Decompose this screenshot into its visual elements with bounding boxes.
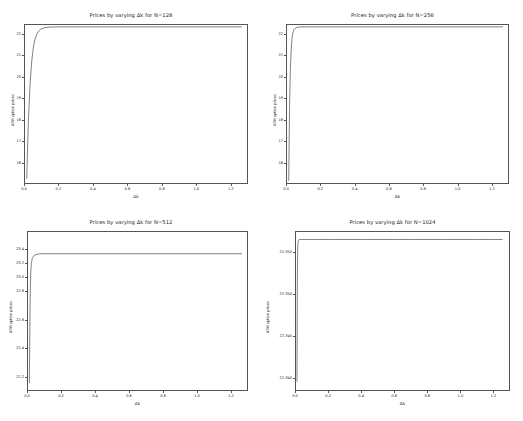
x-tick-label: 0.6 <box>125 187 131 191</box>
x-tick-mark <box>27 391 28 393</box>
y-tick-label: 22 <box>262 32 283 36</box>
y-tick-label: 16 <box>0 161 21 165</box>
x-tick-mark <box>493 391 494 393</box>
y-tick-mark <box>22 163 24 164</box>
y-tick-mark <box>22 120 24 121</box>
subplot-title: Prices by varying Δk for N=512 <box>0 219 262 225</box>
y-tick-label: 17 <box>0 139 21 143</box>
y-tick-mark <box>293 336 295 337</box>
y-tick-mark <box>22 55 24 56</box>
x-tick-label: 0.0 <box>21 187 27 191</box>
y-tick-label: 17 <box>262 139 283 143</box>
subplot-n512: Prices by varying Δk for N=512 ATM optio… <box>0 215 262 418</box>
x-tick-mark <box>295 391 296 393</box>
y-tick-label: 21 <box>0 53 21 57</box>
y-tick-label: 22.2 <box>0 375 24 379</box>
y-tick-mark <box>25 291 27 292</box>
plot-area <box>24 24 248 184</box>
x-tick-mark <box>196 184 197 186</box>
y-tick-mark <box>25 377 27 378</box>
x-tick-mark <box>163 391 164 393</box>
y-tick-label: 19 <box>0 96 21 100</box>
x-tick-label: 0.4 <box>92 394 98 398</box>
x-tick-mark <box>286 184 287 186</box>
series-line-n512 <box>28 232 247 390</box>
x-tick-label: 0.6 <box>126 394 132 398</box>
y-tick-label: 18 <box>262 118 283 122</box>
series-line-n128 <box>25 25 247 183</box>
x-tick-mark <box>129 391 130 393</box>
y-tick-mark <box>284 163 286 164</box>
x-tick-mark <box>427 391 428 393</box>
x-tick-label: 0.8 <box>420 187 426 191</box>
y-axis-label: ATM option prices <box>273 80 277 140</box>
y-tick-label: 21 <box>262 53 283 57</box>
subplot-n1024: Prices by varying Δk for N=1024 ATM opti… <box>262 215 523 418</box>
x-tick-mark <box>61 391 62 393</box>
y-tick-label: 16 <box>262 161 283 165</box>
y-tick-label: 20 <box>0 75 21 79</box>
subplot-n256: Prices by varying Δk for N=256 ATM optio… <box>262 8 523 211</box>
x-tick-label: 0.0 <box>292 394 298 398</box>
x-tick-label: 0.2 <box>317 187 323 191</box>
x-tick-mark <box>355 184 356 186</box>
y-tick-label: 23.4 <box>0 247 24 251</box>
x-tick-mark <box>492 184 493 186</box>
y-tick-mark <box>25 249 27 250</box>
y-tick-mark <box>284 55 286 56</box>
x-tick-label: 0.4 <box>352 187 358 191</box>
x-tick-label: 1.2 <box>228 187 234 191</box>
x-tick-mark <box>423 184 424 186</box>
x-tick-mark <box>231 391 232 393</box>
x-tick-label: 1.0 <box>194 394 200 398</box>
y-tick-mark <box>25 348 27 349</box>
plot-area <box>295 231 510 391</box>
x-tick-label: 0.0 <box>24 394 30 398</box>
y-tick-label: 22.350 <box>262 292 292 296</box>
x-tick-mark <box>58 184 59 186</box>
x-tick-label: 0.6 <box>391 394 397 398</box>
x-tick-mark <box>231 184 232 186</box>
x-tick-mark <box>394 391 395 393</box>
x-tick-label: 0.4 <box>358 394 364 398</box>
y-tick-mark <box>284 120 286 121</box>
x-tick-label: 1.2 <box>491 394 497 398</box>
y-tick-label: 19 <box>262 96 283 100</box>
y-tick-mark <box>293 378 295 379</box>
y-tick-mark <box>25 277 27 278</box>
y-tick-mark <box>22 34 24 35</box>
x-tick-mark <box>320 184 321 186</box>
plot-area <box>27 231 248 391</box>
figure-canvas: Prices by varying Δk for N=128 ATM optio… <box>0 0 523 421</box>
y-tick-label: 20 <box>262 75 283 79</box>
y-tick-label: 18 <box>0 118 21 122</box>
plot-area <box>286 24 509 184</box>
subplot-title: Prices by varying Δk for N=128 <box>0 12 262 18</box>
y-tick-mark <box>22 98 24 99</box>
x-tick-label: 1.2 <box>228 394 234 398</box>
y-tick-label: 22.6 <box>0 318 24 322</box>
x-tick-mark <box>93 184 94 186</box>
x-axis-label: Δk <box>24 194 248 199</box>
y-tick-mark <box>284 34 286 35</box>
x-tick-label: 0.2 <box>58 394 64 398</box>
x-tick-mark <box>197 391 198 393</box>
series-line-n1024 <box>296 232 509 390</box>
subplot-n128: Prices by varying Δk for N=128 ATM optio… <box>0 8 262 211</box>
x-tick-label: 0.6 <box>386 187 392 191</box>
x-axis-label: Δk <box>286 194 509 199</box>
y-tick-label: 22.345 <box>262 334 292 338</box>
x-tick-label: 0.8 <box>160 394 166 398</box>
x-tick-mark <box>460 391 461 393</box>
series-line-n256 <box>287 25 508 183</box>
x-tick-mark <box>361 391 362 393</box>
y-tick-mark <box>284 77 286 78</box>
y-tick-mark <box>284 98 286 99</box>
x-tick-mark <box>328 391 329 393</box>
x-tick-label: 1.0 <box>193 187 199 191</box>
y-tick-label: 23.2 <box>0 261 24 265</box>
x-axis-label: Δk <box>27 401 248 406</box>
x-tick-mark <box>458 184 459 186</box>
y-tick-mark <box>293 294 295 295</box>
y-tick-mark <box>293 252 295 253</box>
